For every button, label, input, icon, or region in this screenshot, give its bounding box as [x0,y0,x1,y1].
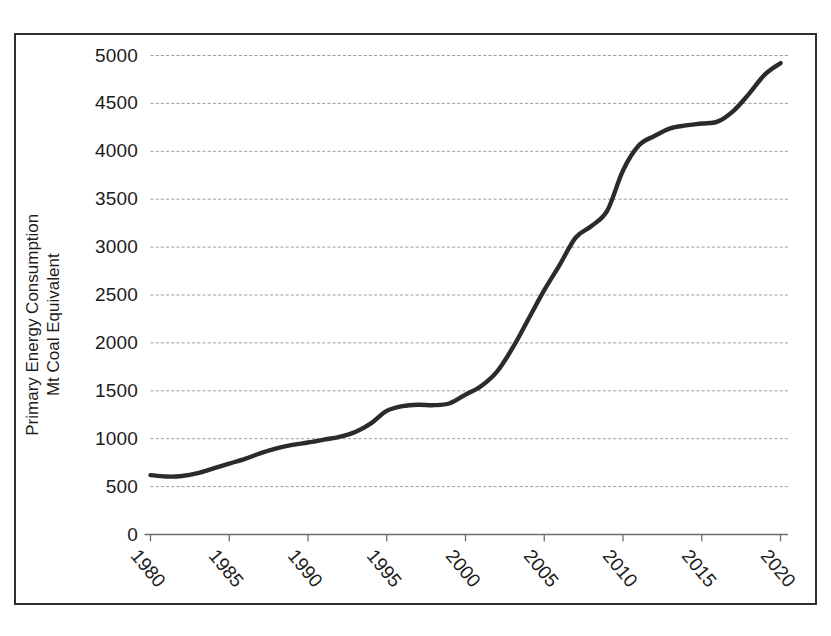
y-tick-label: 4500 [60,93,138,112]
y-tick-label: 2000 [60,333,138,352]
y-tick-label: 500 [60,477,138,496]
y-tick-label: 2500 [60,285,138,304]
y-axis-title: Primary Energy Consumption Mt Coal Equiv… [23,195,64,455]
y-tick-label: 3000 [60,237,138,256]
y-tick-label: 5000 [60,46,138,65]
y-tick-label: 1500 [60,381,138,400]
chart-figure: Primary Energy Consumption Mt Coal Equiv… [0,0,831,636]
chart-frame-border [14,33,817,605]
y-tick-label: 1000 [60,429,138,448]
y-tick-label: 4000 [60,141,138,160]
y-tick-label: 0 [60,525,138,544]
y-tick-label: 3500 [60,189,138,208]
